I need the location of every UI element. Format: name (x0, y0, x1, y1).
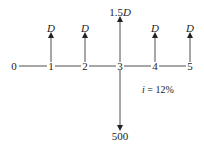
interest-equals: = (147, 84, 153, 95)
inflow-arrows (51, 19, 190, 62)
period-label-5: 5 (187, 61, 193, 72)
inflow-label-period-3: 1.5D (109, 7, 131, 18)
interest-rate-label: i = 12% (142, 85, 174, 95)
outflow-label-period-3: 500 (112, 131, 129, 142)
interest-value: 12% (155, 84, 173, 95)
inflow-multiplier: 1.5 (109, 6, 123, 18)
period-label-4: 4 (152, 61, 158, 72)
interest-symbol: i (142, 84, 145, 95)
period-label-3: 3 (117, 61, 123, 72)
cash-flow-diagram (0, 0, 204, 146)
period-label-2: 2 (82, 61, 88, 72)
inflow-label-period-2: D (81, 23, 89, 34)
inflow-label-period-5: D (186, 23, 194, 34)
period-label-0: 0 (11, 61, 17, 72)
period-label-1: 1 (48, 61, 54, 72)
inflow-label-period-1: D (47, 23, 55, 34)
inflow-label-period-4: D (151, 23, 159, 34)
inflow-symbol: D (123, 6, 131, 18)
